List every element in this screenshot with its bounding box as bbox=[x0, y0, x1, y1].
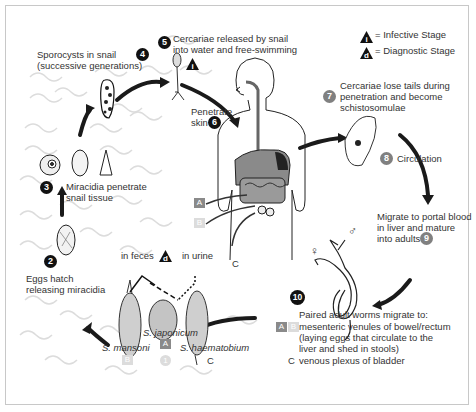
legend-diagnostic: d = Diagnostic Stage bbox=[360, 45, 373, 63]
step-10-label-line4: liver and shed in stools) bbox=[299, 343, 399, 355]
svg-text:i: i bbox=[365, 35, 367, 43]
worm-tag-c: C bbox=[288, 355, 295, 367]
step-3-label-line1: Miracidia penetrate bbox=[66, 181, 147, 193]
step-9-label-line1: Migrate to portal blood bbox=[377, 211, 472, 223]
step-10-label-line1: Paired adult worms migrate to: bbox=[299, 309, 428, 321]
step-5-label-line2: into water and free-swimming bbox=[173, 44, 297, 56]
step-6-badge: 6 bbox=[208, 116, 221, 129]
species-mansoni-tag: B bbox=[122, 355, 133, 365]
cercaria bbox=[172, 53, 184, 100]
step-9-badge: 9 bbox=[420, 232, 433, 245]
svg-text:d: d bbox=[163, 254, 168, 262]
infective-stage-icon: i bbox=[360, 31, 373, 43]
species-japonicum: S. japonicum bbox=[143, 327, 198, 339]
sporocyst bbox=[101, 80, 114, 118]
step-4-label-line1: Sporocysts in snail bbox=[37, 49, 116, 61]
step-8-label: Circulation bbox=[397, 153, 442, 165]
step-6-label-line2: skin bbox=[191, 117, 208, 129]
body-tag-b: B bbox=[194, 218, 205, 228]
species-japonicum-tag: A bbox=[160, 339, 171, 349]
worm-tag-b: B bbox=[288, 322, 299, 332]
step-1-badge: 1 bbox=[160, 355, 171, 366]
organs bbox=[235, 150, 290, 216]
female-symbol: ♀ bbox=[310, 246, 319, 258]
species-haematobium: S. haematobium bbox=[180, 342, 249, 354]
infective-stage-marker-icon: i bbox=[186, 58, 199, 70]
male-symbol: ♂ bbox=[348, 226, 357, 238]
species-mansoni: S. mansoni bbox=[102, 342, 150, 354]
step-5-label-line1: Cercariae released by snail bbox=[173, 33, 288, 45]
species-haematobium-tag: C bbox=[207, 355, 214, 367]
svg-text:i: i bbox=[191, 62, 193, 70]
body-tag-a: A bbox=[194, 198, 205, 208]
step-9-label-line2: in liver and mature bbox=[377, 222, 455, 234]
in-feces-label: in feces bbox=[121, 250, 154, 262]
step-10-label-line5: venous plexus of bladder bbox=[299, 355, 405, 367]
arrow-heads bbox=[57, 77, 434, 336]
step-3-badge: 3 bbox=[40, 181, 53, 194]
legend-diagnostic-label: = Diagnostic Stage bbox=[375, 45, 455, 57]
egg-source-lines bbox=[130, 276, 195, 300]
step-7-label-line3: schistosomulae bbox=[340, 102, 405, 114]
step-10-label-line3: (laying eggs that circulate to the bbox=[299, 332, 433, 344]
step-3-label-line2: snail tissue bbox=[66, 192, 113, 204]
step-10-label-line2: mesenteric venules of bowel/rectum bbox=[299, 321, 451, 333]
legend-infective-label: = Infective Stage bbox=[375, 29, 446, 41]
step-8-badge: 8 bbox=[380, 152, 393, 165]
step-2-label-line2: releasing miracidia bbox=[26, 284, 105, 296]
in-urine-label: in urine bbox=[182, 250, 213, 262]
step-5-badge: 5 bbox=[158, 36, 171, 49]
step-4-label-line2: (successive generations) bbox=[37, 60, 142, 72]
step-2-label-line1: Eggs hatch bbox=[26, 273, 74, 285]
worm-tag-a: A bbox=[276, 322, 287, 332]
diagnostic-stage-marker-icon: d bbox=[159, 250, 172, 262]
step-7-label-line2: penetration and become bbox=[340, 91, 442, 103]
step-10-badge: 10 bbox=[290, 290, 305, 305]
step-9-label-line3: into adults bbox=[377, 233, 420, 245]
esophagus bbox=[246, 82, 258, 160]
diagnostic-stage-icon: d bbox=[360, 47, 373, 59]
step-7-badge: 7 bbox=[323, 90, 336, 103]
body-tag-c: C bbox=[232, 258, 239, 270]
schistosomulum bbox=[345, 116, 376, 165]
svg-text:d: d bbox=[364, 51, 369, 59]
step-7-label-line1: Cercariae lose tails during bbox=[340, 80, 450, 92]
miracidium bbox=[57, 225, 75, 255]
step-2-badge: 2 bbox=[44, 255, 57, 268]
